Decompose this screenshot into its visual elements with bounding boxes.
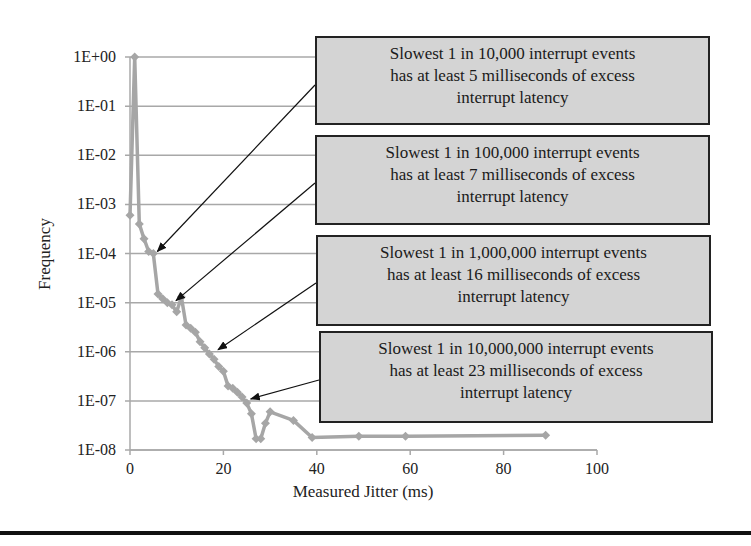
callout-line: Slowest 1 in 10,000,000 interrupt events bbox=[321, 338, 711, 360]
callout-line: has at least 5 milliseconds of excess bbox=[317, 65, 708, 87]
y-tick-label: 1E-06 bbox=[77, 343, 116, 360]
callout-line: Slowest 1 in 1,000,000 interrupt events bbox=[318, 242, 709, 264]
x-tick-label: 80 bbox=[496, 460, 512, 477]
y-axis-title: Frequency bbox=[35, 218, 54, 290]
callout-line: has at least 23 milliseconds of excess bbox=[321, 360, 711, 382]
callout-line: interrupt latency bbox=[321, 382, 711, 404]
callout-line: Slowest 1 in 10,000 interrupt events bbox=[317, 43, 708, 65]
x-tick-label: 100 bbox=[585, 460, 609, 477]
callout-box-1: Slowest 1 in 10,000 interrupt events has… bbox=[315, 36, 710, 125]
y-tick-label: 1E-03 bbox=[77, 195, 116, 212]
diamond-marker-icon bbox=[256, 434, 265, 443]
diamond-marker-icon bbox=[140, 234, 149, 243]
callout-arrow-icon bbox=[218, 283, 316, 350]
y-tick-label: 1E-04 bbox=[77, 245, 116, 262]
callout-box-3: Slowest 1 in 1,000,000 interrupt events … bbox=[316, 235, 711, 326]
y-tick-label: 1E-08 bbox=[77, 441, 116, 458]
diamond-marker-icon bbox=[130, 53, 139, 62]
y-tick-label: 1E-07 bbox=[77, 392, 116, 409]
callout-line: Slowest 1 in 100,000 interrupt events bbox=[317, 142, 708, 164]
diamond-marker-icon bbox=[354, 432, 363, 441]
callout-box-4: Slowest 1 in 10,000,000 interrupt events… bbox=[319, 331, 713, 423]
x-tick-label: 60 bbox=[402, 460, 418, 477]
diamond-marker-icon bbox=[401, 432, 410, 441]
x-tick-label: 40 bbox=[309, 460, 325, 477]
callout-arrow-icon bbox=[251, 380, 319, 399]
callout-line: interrupt latency bbox=[317, 87, 708, 109]
x-axis-title: Measured Jitter (ms) bbox=[293, 482, 434, 501]
x-tick-label: 0 bbox=[126, 460, 134, 477]
diamond-marker-icon bbox=[126, 211, 135, 220]
callout-line: has at least 16 milliseconds of excess bbox=[318, 264, 709, 286]
callout-arrow-icon bbox=[157, 85, 315, 252]
y-tick-label: 1E-01 bbox=[77, 97, 116, 114]
bottom-rule-divider bbox=[0, 531, 751, 535]
callout-arrow-icon bbox=[176, 183, 315, 301]
diamond-marker-icon bbox=[135, 219, 144, 228]
callout-line: has at least 7 milliseconds of excess bbox=[317, 164, 708, 186]
diamond-marker-icon bbox=[541, 431, 550, 440]
y-tick-label: 1E+00 bbox=[73, 48, 116, 65]
y-tick-label: 1E-02 bbox=[77, 146, 116, 163]
x-tick-label: 20 bbox=[215, 460, 231, 477]
y-tick-label: 1E-05 bbox=[77, 294, 116, 311]
x-axis-tick-labels: 020406080100 bbox=[126, 450, 609, 477]
callout-box-2: Slowest 1 in 100,000 interrupt events ha… bbox=[315, 135, 710, 225]
y-axis-tick-labels: 1E+001E-011E-021E-031E-041E-051E-061E-07… bbox=[73, 48, 116, 458]
callout-line: interrupt latency bbox=[317, 186, 708, 208]
callout-line: interrupt latency bbox=[318, 286, 709, 308]
